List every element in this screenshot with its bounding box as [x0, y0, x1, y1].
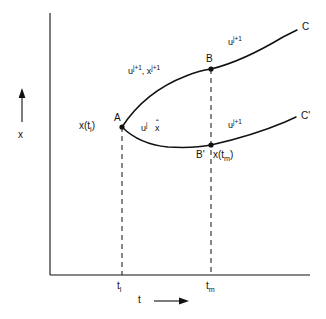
up-arrow-icon	[19, 88, 26, 122]
point-label-c: C	[302, 22, 309, 32]
state-label-at-bp: x(tm)	[213, 150, 233, 160]
right-arrow-icon	[154, 298, 189, 305]
state-label-at-bp-base: x(t	[213, 149, 224, 160]
curve-label-lower-right: uj+1	[228, 121, 242, 130]
state-label-at-bp-tail: )	[230, 149, 233, 160]
curve-label-upper-right-u-sup: j+1	[233, 35, 242, 42]
curve-label-lower-right-u-sup: j+1	[233, 118, 242, 125]
marker-point-a	[119, 124, 124, 129]
curve-label-upper-left-u-sup: j+1	[133, 64, 142, 71]
y-axis-label: x	[18, 130, 23, 140]
state-label-at-a: x(tl)	[79, 121, 95, 131]
marker-point-b	[208, 66, 213, 71]
point-label-b: B	[206, 54, 213, 64]
state-label-at-a-base: x(t	[79, 120, 90, 131]
xhat-accent-icon: ˆ	[156, 119, 159, 128]
tick-label-tl: tl	[117, 281, 121, 291]
curve-label-upper-left-x-sup: j+1	[151, 64, 160, 71]
point-label-a: A	[114, 113, 121, 123]
curve-label-lower-left-u-sup: j	[146, 121, 147, 128]
figure-container: x t tl tm A B B' C C' x(tl) x(tm) uj+1, …	[0, 0, 326, 319]
curve-label-upper-left-sep: ,	[142, 66, 145, 76]
marker-point-bp	[208, 142, 213, 147]
tick-label-tm-sub: m	[209, 285, 215, 294]
curve-label-upper-left: uj+1, xj+1	[128, 67, 160, 76]
tick-label-tl-sub: l	[120, 285, 122, 294]
state-label-at-a-tail: )	[92, 120, 95, 131]
tick-label-tm: tm	[206, 281, 215, 291]
x-axis-label: t	[138, 295, 141, 305]
curve-label-upper-right: uj+1	[228, 38, 242, 47]
plot-canvas	[0, 0, 326, 319]
point-label-bp: B'	[196, 150, 205, 160]
curve-label-lower-left: uj ˆx	[141, 124, 159, 133]
curve-label-lower-left-xhat: ˆx	[155, 124, 160, 133]
point-label-cp: C'	[301, 111, 310, 121]
curve-upper-branch	[122, 30, 297, 127]
